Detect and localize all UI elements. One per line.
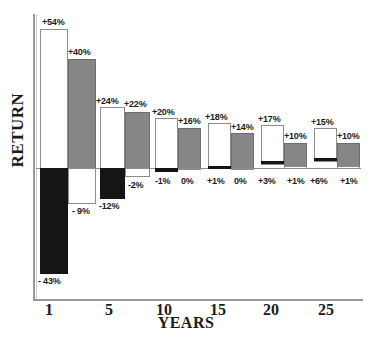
label-year10-black-low: -1% [155, 176, 170, 186]
bar-year20-white-high [261, 125, 284, 165]
x-tick-1: 1 [29, 301, 69, 319]
x-tick-10: 10 [144, 301, 184, 319]
bar-year10-white-high [155, 118, 178, 169]
label-year25-gray-avg: +10% [337, 131, 359, 141]
bar-year15-white-high [208, 123, 231, 169]
x-tick-25: 25 [306, 301, 346, 319]
bar-year1-white-low [68, 168, 96, 204]
label-year20-black-low: +3% [258, 176, 276, 186]
bar-year1-black-low [40, 168, 68, 274]
x-tick-20: 20 [251, 301, 291, 319]
label-year25-black-low: +6% [310, 176, 328, 186]
label-year10-white-high: +20% [152, 107, 174, 117]
bar-year15-gray-avg [231, 133, 254, 169]
label-year20-white-high: +17% [258, 114, 280, 124]
label-year25-white-low: +1% [340, 176, 358, 186]
bar-year1-white-high [40, 29, 68, 169]
y-axis-line [33, 14, 35, 300]
y-axis-title: RETURN [8, 90, 28, 170]
bar-year5-white-high [100, 107, 125, 169]
label-year1-black-low: - 43% [38, 276, 61, 286]
bar-year10-white-low [178, 168, 201, 170]
y-axis-inner-line [36, 14, 37, 300]
label-year15-white-low: 0% [234, 176, 247, 186]
bar-year10-black-low [155, 168, 178, 172]
bar-year15-white-low [231, 168, 254, 170]
bar-year10-gray-avg [178, 128, 201, 169]
bar-year5-gray-avg [125, 112, 150, 169]
bar-year15-black-low [208, 166, 231, 169]
x-tick-15: 15 [198, 301, 238, 319]
label-year20-white-low: +1% [287, 176, 305, 186]
label-year10-white-low: 0% [181, 176, 194, 186]
return-vs-years-bar-chart: RETURN YEARS 1 5 10 15 20 25 +54% +40% -… [0, 0, 372, 338]
bar-year5-white-low [125, 168, 150, 177]
label-year1-white-low: - 9% [72, 206, 90, 216]
label-year5-black-low: -12% [99, 201, 119, 211]
bar-year25-white-low [337, 166, 360, 169]
bar-year1-gray-avg [68, 59, 96, 169]
bar-year25-white-high [314, 128, 337, 162]
bar-year20-black-low [261, 161, 284, 164]
label-year15-gray-avg: +14% [231, 122, 253, 132]
label-year1-white-high: +54% [42, 17, 64, 27]
bar-year5-black-low [100, 168, 125, 199]
label-year20-gray-avg: +10% [284, 131, 306, 141]
bar-year20-white-low [284, 166, 307, 169]
bar-year25-black-low [314, 158, 337, 161]
label-year5-white-low: -2% [128, 180, 143, 190]
label-year5-white-high: +24% [96, 96, 118, 106]
label-year1-gray-avg: +40% [68, 47, 90, 57]
label-year15-black-low: +1% [207, 176, 225, 186]
x-tick-5: 5 [89, 301, 129, 319]
label-year5-gray-avg: +22% [124, 99, 146, 109]
label-year10-gray-avg: +16% [178, 116, 200, 126]
label-year15-white-high: +18% [205, 112, 227, 122]
label-year25-white-high: +15% [311, 117, 333, 127]
